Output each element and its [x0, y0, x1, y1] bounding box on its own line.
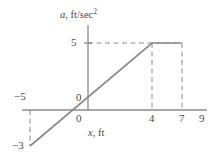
- y-axis-label-unit: , ft/sec: [65, 9, 93, 20]
- x-tick-label-9: 9: [199, 113, 205, 124]
- x-axis-label-unit: , ft: [93, 127, 105, 138]
- y-axis-label-exponent: 2: [93, 7, 97, 16]
- chart-figure: a, ft/sec2 x, ft 5 0 −3 −5 0 4 7 9: [0, 0, 217, 161]
- x-tick-label-7: 7: [179, 113, 185, 124]
- y-tick-label-minus-3: −3: [12, 140, 24, 151]
- x-tick-label-minus-5: −5: [14, 91, 26, 102]
- data-series-acceleration: [30, 43, 182, 146]
- x-axis-label: x, ft: [88, 128, 104, 139]
- x-tick-label-4: 4: [149, 113, 155, 124]
- chart-canvas: [0, 0, 217, 161]
- y-axis-label: a, ft/sec2: [60, 10, 97, 21]
- y-tick-label-5: 5: [71, 37, 77, 48]
- x-tick-label-0: 0: [76, 113, 82, 124]
- y-tick-label-0: 0: [76, 92, 82, 103]
